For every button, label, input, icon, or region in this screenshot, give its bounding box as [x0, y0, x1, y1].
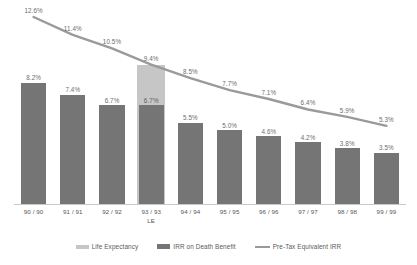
- pre-tax-irr-point-label: 5.3%: [379, 116, 394, 123]
- legend-item[interactable]: IRR on Death Benefit: [157, 243, 235, 250]
- legend-item[interactable]: Pre-Tax Equivalent IRR: [255, 243, 342, 250]
- pre-tax-irr-point-label: 6.4%: [301, 99, 316, 106]
- pre-tax-irr-point-label: 10.5%: [103, 38, 121, 45]
- pre-tax-irr-point-label: 5.9%: [340, 107, 355, 114]
- legend-swatch-icon: [255, 246, 270, 248]
- pre-tax-irr-point-label: 7.7%: [222, 80, 237, 87]
- x-axis-tick: 99 / 99: [367, 207, 406, 235]
- pre-tax-irr-point-label: 7.1%: [261, 89, 276, 96]
- legend-item[interactable]: Life Expectancy: [76, 243, 139, 250]
- x-axis-tick: 91 / 91: [53, 207, 92, 235]
- pre-tax-irr-point-label: 11.4%: [64, 25, 82, 32]
- pre-tax-irr-point-label: 12.6%: [24, 7, 42, 14]
- x-axis-tick: 92 / 92: [92, 207, 131, 235]
- legend-swatch-icon: [157, 244, 170, 249]
- x-axis-tick: 98 / 98: [328, 207, 367, 235]
- pre-tax-irr-point-label: 8.5%: [183, 68, 198, 75]
- x-axis-tick-labels: 90 / 9091 / 9192 / 9293 / 93LE94 / 9495 …: [14, 207, 406, 235]
- legend-swatch-icon: [76, 245, 89, 249]
- x-axis-tick: 93 / 93LE: [132, 207, 171, 235]
- legend-label: IRR on Death Benefit: [173, 243, 235, 250]
- x-axis-tick: 96 / 96: [249, 207, 288, 235]
- x-axis-tick: 94 / 94: [171, 207, 210, 235]
- x-axis-line: [14, 204, 406, 205]
- plot-area: 8.2%7.4%6.7%9.4%6.7%5.5%5.0%4.6%4.2%3.8%…: [14, 8, 406, 205]
- x-axis-tick: 95 / 95: [210, 207, 249, 235]
- chart-container: 8.2%7.4%6.7%9.4%6.7%5.5%5.0%4.6%4.2%3.8%…: [0, 0, 417, 265]
- x-axis-tick: 97 / 97: [288, 207, 327, 235]
- legend-label: Life Expectancy: [92, 243, 139, 250]
- legend-label: Pre-Tax Equivalent IRR: [273, 243, 342, 250]
- x-axis-tick: 90 / 90: [14, 207, 53, 235]
- chart-legend: Life ExpectancyIRR on Death BenefitPre-T…: [0, 243, 417, 250]
- x-axis-tick-sublabel: LE: [132, 216, 171, 225]
- pre-tax-irr-point-label: 9.4%: [144, 55, 159, 62]
